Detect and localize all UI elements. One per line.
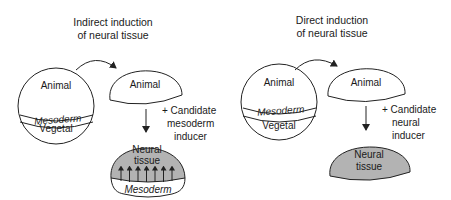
indirect-induction-panel: Indirect induction of neural tissue Anim… <box>18 16 217 197</box>
direct-induction-panel: Direct induction of neural tissue Animal… <box>241 14 437 180</box>
left-embryo-vegetal-label: Vegetal <box>39 123 72 134</box>
left-embryo-animal-label: Animal <box>41 80 72 91</box>
right-embryo-vegetal-label: Vegetal <box>262 120 295 131</box>
left-result-line1: Neural <box>132 144 161 155</box>
left-treatment-line1: + Candidate <box>162 105 217 116</box>
right-animal-cap: Animal <box>328 69 405 102</box>
left-cap-label: Animal <box>130 79 161 90</box>
right-title-line2: of neural tissue <box>296 27 367 39</box>
left-animal-cap: Animal <box>110 71 182 104</box>
right-embryo-animal-label: Animal <box>264 77 295 88</box>
right-title-line1: Direct induction <box>296 14 369 26</box>
induction-diagram: Indirect induction of neural tissue Anim… <box>0 0 451 200</box>
left-title-line1: Indirect induction <box>73 16 153 28</box>
right-transfer-arrow <box>295 60 337 70</box>
right-treatment-line1: + Candidate <box>382 104 437 115</box>
left-treatment-line2: mesoderm <box>167 118 214 129</box>
right-result-line1: Neural <box>354 149 383 160</box>
right-treatment-line3: inducer <box>392 130 425 141</box>
left-transfer-arrow <box>76 60 116 70</box>
left-embryo: Animal Mesoderm Vegetal <box>18 68 94 144</box>
left-result-line2: tissue <box>134 155 161 166</box>
right-treatment-line2: neural <box>392 117 420 128</box>
left-treatment-line3: inducer <box>174 131 207 142</box>
left-result-explant: Neural tissue Mesoderm <box>111 144 185 197</box>
right-cap-label: Animal <box>351 77 382 88</box>
left-title-line2: of neural tissue <box>77 29 148 41</box>
right-result-explant: Neural tissue <box>330 147 410 180</box>
left-result-base-label: Mesoderm <box>124 184 171 195</box>
right-embryo: Animal Mesoderm Vegetal <box>241 64 317 140</box>
right-result-line2: tissue <box>356 161 383 172</box>
right-embryo-mesoderm-label: Mesoderm <box>257 103 305 117</box>
